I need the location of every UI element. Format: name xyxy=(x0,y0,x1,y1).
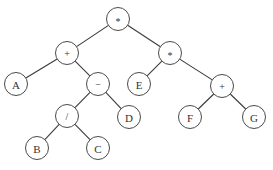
node-label: − xyxy=(95,79,101,90)
tree-node-root: * xyxy=(107,8,130,31)
tree-node-D: D xyxy=(118,106,141,129)
tree-edge-minus-to-D xyxy=(106,92,121,108)
tree-node-G: G xyxy=(243,106,266,129)
node-label: G xyxy=(250,112,258,124)
tree-edge-plus-right-to-G xyxy=(230,94,245,109)
tree-node-divide: / xyxy=(56,105,79,128)
tree-edge-divide-to-B xyxy=(45,124,59,139)
tree-edge-divide-to-C xyxy=(75,124,90,139)
tree-node-minus: − xyxy=(87,73,110,96)
tree-edge-times-right-to-E xyxy=(147,61,162,76)
node-label: E xyxy=(136,79,143,91)
node-label: * xyxy=(116,16,121,27)
node-label: + xyxy=(219,81,225,92)
tree-node-B: B xyxy=(26,137,49,160)
tree-edge-root-to-times-right xyxy=(128,25,161,46)
node-label: F xyxy=(187,112,193,124)
tree-node-C: C xyxy=(87,137,110,160)
tree-node-E: E xyxy=(128,73,151,96)
tree-node-F: F xyxy=(179,106,202,129)
node-label: * xyxy=(168,50,173,61)
tree-edge-plus-left-to-minus xyxy=(75,61,90,76)
node-label: B xyxy=(33,143,40,155)
tree-node-times-right: * xyxy=(159,42,182,65)
node-label: D xyxy=(125,112,133,124)
tree-edge-times-right-to-plus-right xyxy=(180,59,213,80)
node-label: A xyxy=(12,79,20,91)
expression-tree-diagram: *+*A−E+/DFGBC xyxy=(0,0,273,170)
node-label: C xyxy=(94,143,101,155)
node-label: + xyxy=(64,48,70,59)
tree-edge-plus-left-to-A xyxy=(26,59,57,78)
tree-node-plus-left: + xyxy=(56,42,79,65)
tree-node-A: A xyxy=(5,73,28,96)
node-label: / xyxy=(66,111,69,122)
tree-edge-minus-to-divide xyxy=(75,92,90,107)
tree-edge-root-to-plus-left xyxy=(77,25,109,46)
tree-node-plus-right: + xyxy=(211,75,234,98)
tree-edge-plus-right-to-F xyxy=(198,94,213,109)
